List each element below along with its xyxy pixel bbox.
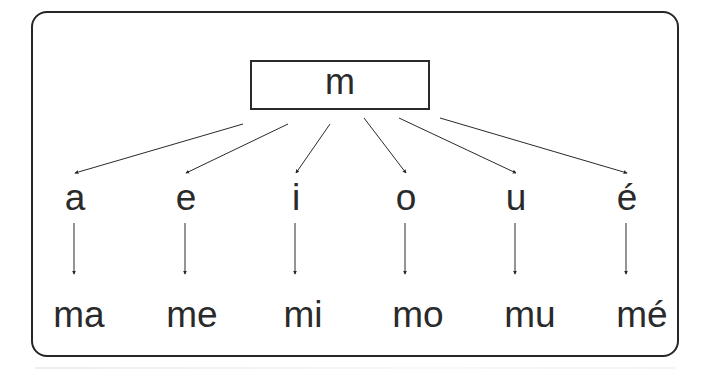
vowel-node: e (156, 178, 216, 218)
syllable-node: ma (39, 295, 119, 335)
syllable-node: mé (602, 295, 682, 335)
syllable-node: me (152, 295, 232, 335)
vowel-node: u (486, 178, 546, 218)
vowel-node: é (597, 178, 657, 218)
root-consonant-box: m (250, 60, 430, 110)
syllable-node: mo (378, 295, 458, 335)
syllable-node: mi (263, 295, 343, 335)
root-consonant: m (325, 64, 355, 100)
vowel-node: o (376, 178, 436, 218)
scan-artifact (35, 367, 675, 369)
vowel-node: a (45, 178, 105, 218)
syllable-node: mu (490, 295, 570, 335)
vowel-node: i (266, 178, 326, 218)
